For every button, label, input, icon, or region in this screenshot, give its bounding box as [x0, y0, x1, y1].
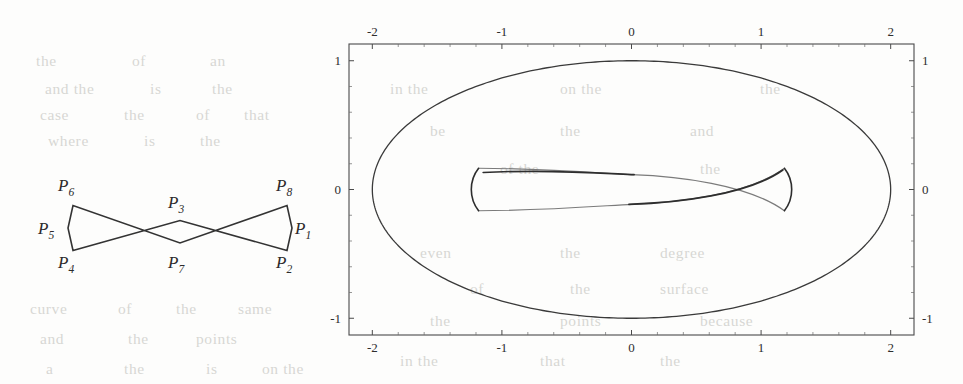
y-ticklabel-right: 1: [922, 53, 929, 68]
x-ticklabel-top: 2: [887, 24, 894, 39]
y-ticklabel-right: -1: [922, 311, 933, 326]
x-ticklabel-bottom: -1: [496, 340, 507, 355]
y-ticklabel-left: -1: [330, 311, 341, 326]
inner-curve-branch: [471, 168, 478, 210]
x-ticklabel-top: -2: [367, 24, 378, 39]
y-ticklabel-right: 0: [922, 182, 929, 197]
control-point-label-p4: P4: [57, 253, 74, 275]
control-point-label-p6: P6: [57, 176, 74, 198]
inner-bowtie-curve: [471, 168, 791, 210]
control-point-label-p1: P1: [294, 219, 311, 241]
control-point-label-p2: P2: [275, 253, 292, 275]
control-point-labels: P1P2P3P4P5P6P7P8: [37, 176, 311, 275]
control-point-label-p5: P5: [37, 219, 54, 241]
x-ticklabel-bottom: -2: [367, 340, 378, 355]
x-ticklabel-bottom: 0: [628, 340, 635, 355]
y-ticklabel-left: 0: [335, 182, 342, 197]
x-ticklabel-top: 1: [758, 24, 765, 39]
control-polygon-panel: P1P2P3P4P5P6P7P8: [0, 0, 340, 384]
curve-plot-panel: -2-2-1-1001122-1-10011: [323, 0, 963, 384]
inner-curve-branch: [483, 171, 634, 174]
x-ticklabel-top: -1: [496, 24, 507, 39]
outer-ellipse-curve: [372, 61, 890, 319]
x-ticklabel-bottom: 1: [758, 340, 765, 355]
control-point-label-p3: P3: [167, 193, 184, 215]
figure-root: theofanand theisthecasetheofthatwhereist…: [0, 0, 963, 384]
y-ticklabel-left: 1: [335, 53, 342, 68]
inner-curve-branch: [784, 168, 791, 210]
x-ticklabel-top: 0: [628, 24, 635, 39]
plot-frame: [349, 44, 914, 335]
control-point-label-p7: P7: [167, 253, 185, 275]
axis-tick-labels: -2-2-1-1001122-1-10011: [330, 24, 933, 355]
x-ticklabel-bottom: 2: [887, 340, 894, 355]
control-point-label-p8: P8: [275, 176, 292, 198]
axis-ticks: [349, 44, 914, 335]
